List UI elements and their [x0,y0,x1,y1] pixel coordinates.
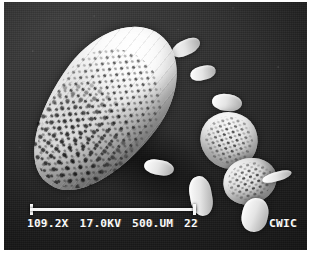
accelerating-voltage-value: 17.0KV [80,217,122,230]
appendage-mid-right [211,92,243,112]
scale-bar-cap-right [193,204,196,215]
magnification-value: 109.2X [27,217,69,230]
appendage-upper-right-2 [189,63,218,83]
micrograph-image: 109.2X 17.0KV 500.UM 22 CWIC [4,2,307,250]
sem-figure: 109.2X 17.0KV 500.UM 22 CWIC [0,0,312,254]
scale-length-value: 500.UM [132,217,173,230]
lab-identifier: CWIC [269,217,297,230]
scale-bar-rule [30,208,196,211]
sem-info-bar: 109.2X 17.0KV 500.UM 22 CWIC [4,200,307,250]
scale-bar [30,204,196,215]
frame-number-value: 22 [184,217,198,230]
sem-readout: 109.2X 17.0KV 500.UM 22 [27,217,198,230]
